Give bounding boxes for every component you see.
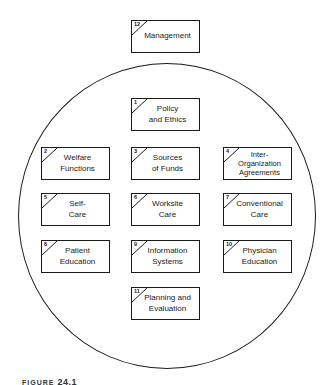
box-patient-education: 8 Patient Education	[41, 240, 110, 273]
box-label: Management	[137, 21, 198, 52]
box-label: Inter- Organization Agreements	[229, 148, 290, 179]
box-policy-and-ethics: 1 Policy and Ethics	[131, 98, 200, 131]
box-physician-education: 10 Physician Education	[223, 240, 292, 273]
box-information-systems: 9 Information Systems	[131, 240, 200, 273]
box-label: Information Systems	[137, 241, 198, 272]
caption-number: 24.1	[57, 377, 77, 385]
box-label: Patient Education	[47, 241, 108, 272]
box-conventional-care: 7 Conventional Care	[223, 193, 292, 226]
box-label: Physician Education	[229, 241, 290, 272]
box-label: Welfare Functions	[47, 148, 108, 179]
box-worksite-care: 6 Worksite Care	[131, 193, 200, 226]
box-management: 12 Management	[131, 20, 200, 53]
box-label: Sources of Funds	[137, 148, 198, 179]
box-label: Policy and Ethics	[137, 99, 198, 130]
box-sources-of-funds: 3 Sources of Funds	[131, 147, 200, 180]
box-label: Planning and Evaluation	[137, 288, 198, 319]
box-self-care: 5 Self- Care	[41, 193, 110, 226]
box-label: Worksite Care	[137, 194, 198, 225]
figure-caption: FIGURE 24.1	[22, 377, 77, 385]
caption-prefix: FIGURE	[22, 379, 54, 385]
box-planning-and-evaluation: 11 Planning and Evaluation	[131, 287, 200, 320]
box-welfare-functions: 2 Welfare Functions	[41, 147, 110, 180]
box-inter-organization-agreements: 4 Inter- Organization Agreements	[223, 147, 292, 180]
box-label: Conventional Care	[229, 194, 290, 225]
box-label: Self- Care	[47, 194, 108, 225]
